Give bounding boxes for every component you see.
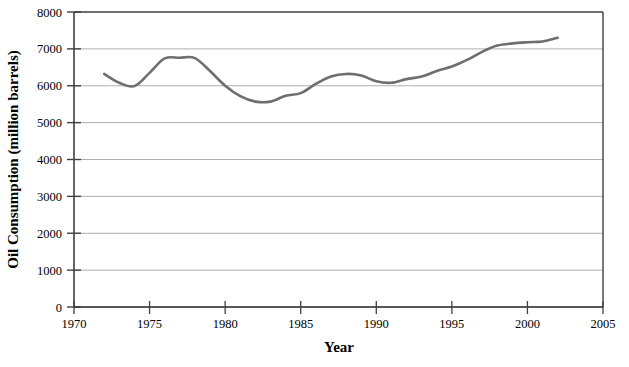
y-tick-label: 2000 [37, 227, 62, 241]
y-tick-label: 4000 [37, 153, 62, 167]
y-tick-label: 0 [56, 301, 62, 315]
y-axis-tick-labels: 010002000300040005000600070008000 [37, 6, 62, 315]
chart-plot-area: 010002000300040005000600070008000 197019… [0, 0, 629, 367]
y-tick-label: 7000 [37, 42, 62, 56]
x-tick-label: 1975 [137, 317, 162, 331]
x-tick-label: 2005 [591, 317, 616, 331]
y-tick-label: 3000 [37, 190, 62, 204]
y-tick-label: 1000 [37, 264, 62, 278]
x-tick-label: 1980 [213, 317, 238, 331]
oil-consumption-chart-figure: Oil Consumption (million barrels) Year 0… [0, 0, 629, 367]
x-tick-label: 2000 [515, 317, 540, 331]
y-tick-label: 8000 [37, 6, 62, 20]
data-series-group [104, 38, 557, 103]
y-tick-label: 6000 [37, 79, 62, 93]
x-tick-label: 1985 [288, 317, 313, 331]
y-tick-label: 5000 [37, 116, 62, 130]
x-tick-label: 1995 [439, 317, 464, 331]
x-axis-tick-labels: 19701975198019851990199520002005 [62, 317, 616, 331]
x-tick-label: 1970 [62, 317, 87, 331]
x-tick-label: 1990 [364, 317, 389, 331]
data-line-oil-consumption [104, 38, 557, 103]
gridlines-group [74, 12, 603, 307]
